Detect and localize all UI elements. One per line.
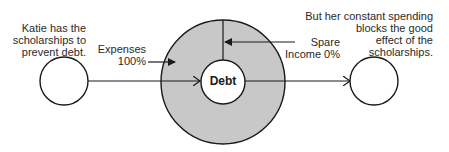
expenses-label-line: Expenses bbox=[96, 43, 146, 55]
left-note-line: scholarships to bbox=[10, 34, 86, 46]
right-note-line: effect of the bbox=[300, 34, 433, 46]
start-circle bbox=[40, 57, 88, 105]
left-note-line: Katie has the bbox=[10, 22, 86, 34]
debt-label: Debt bbox=[201, 75, 245, 87]
expenses-label-line: 100% bbox=[96, 55, 146, 67]
expenses-label: Expenses 100% bbox=[96, 43, 146, 67]
left-note: Katie has the scholarships to prevent de… bbox=[10, 22, 86, 58]
right-note-line: But her constant spending bbox=[300, 10, 433, 22]
end-circle bbox=[350, 57, 398, 105]
left-note-line: prevent debt. bbox=[10, 46, 86, 58]
right-note-line: blocks the good bbox=[300, 22, 433, 34]
right-note: But her constant spending blocks the goo… bbox=[300, 10, 433, 58]
right-note-line: scholarships. bbox=[300, 46, 433, 58]
